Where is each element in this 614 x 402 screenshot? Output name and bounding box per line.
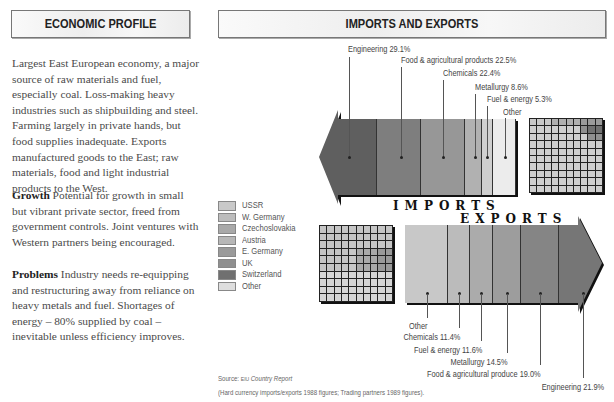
grid-cell — [588, 119, 594, 125]
grid-cell — [596, 171, 602, 177]
grid-cell — [378, 241, 384, 248]
source-note: Source: EIU Country Report — [218, 374, 292, 383]
grid-cell — [581, 126, 587, 132]
grid-cell — [567, 126, 573, 132]
grid-cell — [378, 272, 384, 279]
grid-cell — [559, 141, 565, 147]
grid-cell — [386, 264, 392, 271]
figures-note: (Hard currency imports/exports 1988 figu… — [218, 388, 424, 397]
grid-cell — [588, 134, 594, 140]
grid-cell — [567, 178, 573, 184]
grid-cell — [357, 287, 363, 294]
grid-cell — [530, 126, 536, 132]
grid-cell — [342, 279, 348, 286]
grid-cell — [559, 134, 565, 140]
grid-cell — [335, 241, 341, 248]
grid-cell — [552, 134, 558, 140]
grid-cell — [378, 256, 384, 263]
grid-cell — [596, 126, 602, 132]
grid-cell — [567, 134, 573, 140]
grid-cell — [349, 287, 355, 294]
grid-cell — [342, 249, 348, 256]
grid-cell — [364, 294, 370, 301]
grid-cell — [574, 126, 580, 132]
grid-cell — [552, 156, 558, 162]
legend-swatch — [218, 236, 236, 246]
legend-swatch — [218, 213, 236, 223]
grid-cell — [581, 186, 587, 192]
grid-cell — [364, 226, 370, 233]
grid-cell — [378, 249, 384, 256]
grid-cell — [349, 264, 355, 271]
grid-cell — [327, 272, 333, 279]
grid-cell — [530, 163, 536, 169]
grid-cell — [545, 186, 551, 192]
grid-cell — [320, 287, 326, 294]
imports-wordmark: IMPORTS — [393, 199, 501, 213]
grid-cell — [364, 256, 370, 263]
grid-cell — [559, 156, 565, 162]
grid-cell — [596, 134, 602, 140]
grid-cell — [349, 241, 355, 248]
grid-cell — [574, 171, 580, 177]
grid-cell — [545, 141, 551, 147]
grid-cell — [371, 241, 377, 248]
grid-cell — [581, 163, 587, 169]
export-label-fuel: Fuel & energy 11.6% — [414, 345, 482, 355]
grid-cell — [357, 294, 363, 301]
grid-cell — [378, 264, 384, 271]
grid-cell — [342, 241, 348, 248]
leader-line — [401, 67, 402, 158]
grid-cell — [588, 171, 594, 177]
grid-cell — [559, 186, 565, 192]
grid-cell — [327, 287, 333, 294]
leader-line — [540, 294, 541, 365]
grid-cell — [371, 272, 377, 279]
grid-cell — [364, 272, 370, 279]
grid-cell — [574, 119, 580, 125]
grid-cell — [342, 264, 348, 271]
grid-cell — [386, 234, 392, 241]
grid-cell — [357, 249, 363, 256]
grid-cell — [386, 272, 392, 279]
legend-swatch — [218, 270, 236, 280]
export-label-engineering: Engineering 21.9% — [542, 382, 604, 392]
grid-cell — [559, 126, 565, 132]
grid-cell — [349, 234, 355, 241]
grid-cell — [588, 149, 594, 155]
grid-cell — [320, 256, 326, 263]
grid-cell — [559, 149, 565, 155]
grid-cell — [545, 171, 551, 177]
export-label-other: Other — [410, 321, 428, 331]
grid-cell — [364, 249, 370, 256]
grid-cell — [574, 134, 580, 140]
grid-cell — [357, 256, 363, 263]
leader-line — [427, 294, 428, 318]
legend-label: Switzerland — [242, 269, 282, 280]
grid-cell — [530, 119, 536, 125]
grid-cell — [342, 287, 348, 294]
grid-cell — [364, 234, 370, 241]
grid-cell — [386, 241, 392, 248]
leader-line — [507, 294, 508, 353]
legend-swatch — [218, 224, 236, 234]
grid-cell — [327, 249, 333, 256]
export-partners-grid — [319, 225, 393, 302]
grid-cell — [530, 156, 536, 162]
grid-cell — [364, 287, 370, 294]
grid-cell — [596, 119, 602, 125]
legend-label: E. Germany — [242, 246, 283, 257]
grid-cell — [342, 256, 348, 263]
grid-cell — [545, 119, 551, 125]
grid-cell — [371, 256, 377, 263]
grid-cell — [596, 141, 602, 147]
imports-arrow — [0, 0, 614, 402]
grid-cell — [567, 186, 573, 192]
grid-cell — [386, 294, 392, 301]
leader-line — [583, 294, 584, 378]
grid-cell — [581, 149, 587, 155]
grid-cell — [559, 163, 565, 169]
grid-cell — [320, 241, 326, 248]
grid-cell — [371, 264, 377, 271]
grid-cell — [552, 163, 558, 169]
